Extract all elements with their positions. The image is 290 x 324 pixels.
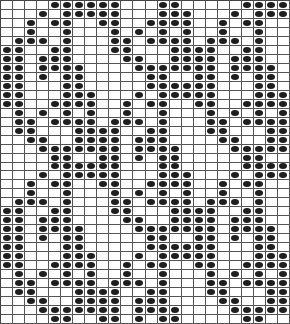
filled-dot-icon [15, 101, 23, 107]
grid-cell [146, 118, 158, 127]
filled-dot-icon [171, 307, 179, 313]
filled-dot-icon [279, 128, 287, 134]
filled-dot-icon [255, 208, 263, 214]
grid-cell [170, 198, 182, 207]
grid-cell [182, 73, 194, 82]
grid-cell [278, 216, 290, 225]
grid-cell [85, 207, 97, 216]
grid-cell [158, 100, 170, 109]
grid-cell [121, 46, 133, 55]
filled-dot-icon [87, 146, 95, 152]
grid-cell [278, 28, 290, 37]
grid-cell [278, 261, 290, 270]
grid-cell [146, 154, 158, 163]
grid-cell [242, 198, 254, 207]
grid-cell [49, 127, 61, 136]
filled-dot-icon [135, 226, 143, 232]
grid-cell [254, 154, 266, 163]
grid-cell [218, 234, 230, 243]
grid-cell [121, 100, 133, 109]
grid-cell [133, 37, 145, 46]
grid-cell [254, 64, 266, 73]
grid-cell [37, 55, 49, 64]
grid-cell [85, 288, 97, 297]
grid-cell [254, 109, 266, 118]
grid-cell [278, 82, 290, 91]
grid-cell [278, 73, 290, 82]
grid-cell [218, 10, 230, 19]
grid-cell [218, 28, 230, 37]
grid-cell [85, 28, 97, 37]
grid-cell [194, 171, 206, 180]
grid-cell [158, 109, 170, 118]
grid-cell [218, 243, 230, 252]
filled-dot-icon [159, 181, 167, 187]
grid-cell [61, 163, 73, 172]
grid-cell [13, 261, 25, 270]
filled-dot-icon [183, 83, 191, 89]
filled-dot-icon [267, 137, 275, 143]
grid-cell [266, 163, 278, 172]
grid-cell [49, 154, 61, 163]
grid-cell [13, 288, 25, 297]
filled-dot-icon [159, 199, 167, 205]
grid-cell [85, 37, 97, 46]
grid-cell [206, 207, 218, 216]
grid-cell [13, 28, 25, 37]
grid-cell [61, 73, 73, 82]
filled-dot-icon [159, 74, 167, 80]
grid-cell [182, 28, 194, 37]
grid-cell [85, 171, 97, 180]
grid-cell [266, 171, 278, 180]
filled-dot-icon [15, 253, 23, 259]
grid-cell [158, 127, 170, 136]
grid-cell [85, 19, 97, 28]
grid-cell [73, 154, 85, 163]
grid-cell [242, 37, 254, 46]
filled-dot-icon [159, 172, 167, 178]
grid-cell [61, 261, 73, 270]
filled-dot-icon [99, 146, 107, 152]
grid-cell [146, 73, 158, 82]
filled-dot-icon [111, 137, 119, 143]
grid-cell [206, 136, 218, 145]
grid-cell [1, 163, 13, 172]
grid-cell [218, 145, 230, 154]
grid-cell [37, 216, 49, 225]
grid-cell [49, 1, 61, 10]
filled-dot-icon [147, 298, 155, 304]
grid-cell [242, 243, 254, 252]
grid-cell [13, 37, 25, 46]
grid-cell [13, 270, 25, 279]
filled-dot-icon [51, 280, 59, 286]
grid-cell [170, 163, 182, 172]
filled-dot-icon [279, 110, 287, 116]
filled-dot-icon [135, 146, 143, 152]
grid-cell [158, 315, 170, 324]
grid-cell [13, 163, 25, 172]
grid-cell [254, 46, 266, 55]
grid-cell [254, 37, 266, 46]
filled-dot-icon [279, 262, 287, 268]
grid-cell [1, 1, 13, 10]
grid-cell [194, 127, 206, 136]
filled-dot-icon [75, 83, 83, 89]
grid-cell [25, 243, 37, 252]
grid-cell [85, 252, 97, 261]
grid-cell [109, 180, 121, 189]
grid-cell [97, 243, 109, 252]
filled-dot-icon [171, 163, 179, 169]
grid-cell [109, 73, 121, 82]
grid-cell [133, 82, 145, 91]
filled-dot-icon [135, 316, 143, 322]
grid-cell [49, 225, 61, 234]
grid-cell [109, 64, 121, 73]
grid-cell [278, 198, 290, 207]
grid-cell [218, 109, 230, 118]
grid-cell [158, 171, 170, 180]
filled-dot-icon [3, 208, 11, 214]
grid-cell [170, 288, 182, 297]
grid-cell [85, 270, 97, 279]
filled-dot-icon [63, 262, 71, 268]
filled-dot-icon [267, 298, 275, 304]
